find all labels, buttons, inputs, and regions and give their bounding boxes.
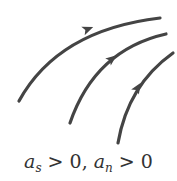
accel-symbol: a — [94, 150, 105, 172]
diagram-canvas: as > 0, an > 0 — [0, 0, 177, 181]
caption-part1: > 0, — [42, 150, 94, 172]
subscript-n: n — [105, 161, 113, 175]
caption: as > 0, an > 0 — [0, 150, 177, 172]
streamline-2 — [70, 34, 166, 123]
streamline-3 — [118, 53, 173, 143]
caption-part2: > 0 — [113, 150, 153, 172]
arrowhead-icon — [81, 23, 95, 35]
accel-symbol: a — [24, 150, 35, 172]
